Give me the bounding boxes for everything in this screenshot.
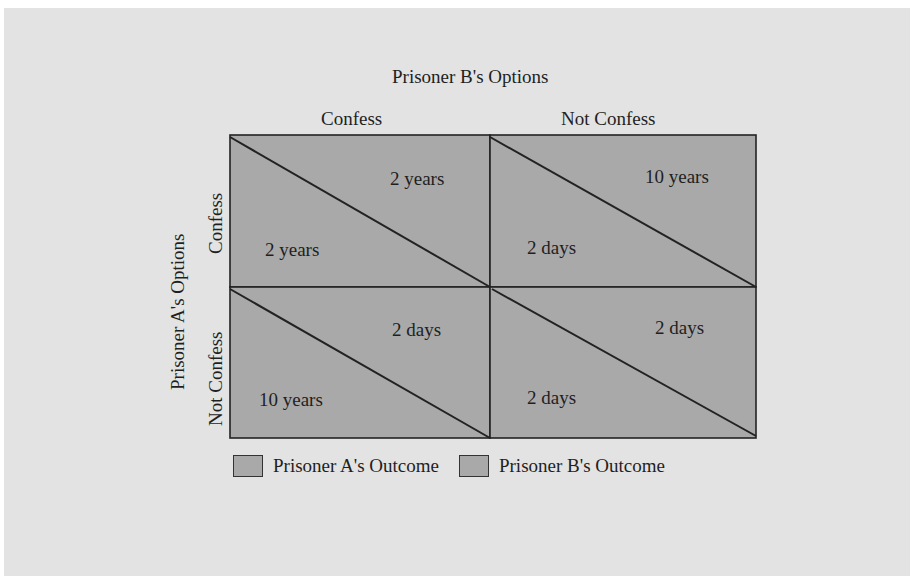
legend: Prisoner A's Outcome Prisoner B's Outcom… [233,455,685,477]
cell-a-outcome: 2 days [527,387,576,409]
cell-b-outcome: 2 days [655,317,704,339]
cell-a-outcome: 2 days [527,237,576,259]
cell-b-outcome: 2 years [390,168,444,190]
cell-b-outcome: 10 years [645,166,709,188]
legend-label: Prisoner A's Outcome [273,455,439,477]
legend-item-prisoner-a: Prisoner A's Outcome [233,455,439,477]
legend-swatch-icon [459,455,489,477]
cell-b-outcome: 2 days [392,319,441,341]
legend-swatch-icon [233,455,263,477]
cell-a-outcome: 2 years [265,239,319,261]
legend-item-prisoner-b: Prisoner B's Outcome [459,455,665,477]
cell-a-outcome: 10 years [259,389,323,411]
legend-label: Prisoner B's Outcome [499,455,665,477]
payoff-matrix [0,0,923,587]
